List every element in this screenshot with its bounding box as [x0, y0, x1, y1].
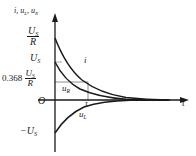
- fraction-numerator: US: [27, 26, 39, 36]
- origin-label: O: [38, 96, 45, 106]
- y-axis-label-i: i: [14, 6, 16, 15]
- y-axis-label: i, uL, uR: [14, 7, 38, 15]
- fraction-numerator: US: [25, 69, 36, 78]
- y-axis-label-ur: uR: [31, 6, 38, 15]
- curve-label-ul: uL: [79, 110, 87, 119]
- transient-response-figure: i, uL, uR US R US 0.368 US R O −US τ i u…: [0, 0, 196, 156]
- curve-label-i: i: [84, 56, 87, 65]
- curve-label-ur: uR: [62, 84, 70, 93]
- tick-coefficient: 0.368: [2, 73, 22, 83]
- y-tick-label-minus-us: −US: [20, 126, 37, 136]
- x-tick-label-tau: τ: [85, 100, 88, 108]
- fraction-denominator: R: [27, 36, 39, 47]
- curve-i: [55, 38, 168, 100]
- curves: [55, 38, 170, 133]
- y-axis-label-ul: uL: [20, 6, 27, 15]
- y-tick-label-0368: 0.368 US R: [2, 69, 36, 88]
- curve-uL: [55, 100, 170, 133]
- fraction-us-over-r-0368: US R: [25, 69, 36, 88]
- y-tick-label-us: US: [30, 53, 40, 63]
- fraction-us-over-r: US R: [27, 26, 39, 47]
- y-axis-arrowhead: [52, 13, 58, 22]
- y-tick-label-us-over-r: US R: [27, 26, 39, 47]
- x-axis-label: t: [182, 98, 185, 108]
- fraction-denominator: R: [25, 78, 36, 88]
